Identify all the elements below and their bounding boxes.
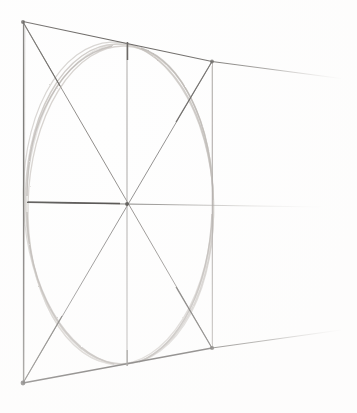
diagonal-accent-tl [23, 22, 60, 86]
center-point [125, 202, 129, 206]
drawing-canvas [0, 0, 357, 413]
corner-mark-top-right [210, 60, 214, 64]
square-edge-left-ghost [24, 26, 25, 379]
ellipse-accent-upper-left [27, 46, 112, 196]
perspective-circle-sketch [0, 0, 357, 413]
corner-mark-bottom-right [210, 346, 214, 350]
corner-mark-top-left [21, 20, 25, 24]
square-edge-top [23, 22, 212, 62]
diagonal-accent-bl [23, 316, 62, 383]
vanishing-line-top [212, 62, 341, 79]
vanishing-line-bottom [212, 330, 341, 348]
corner-mark-bottom-left [21, 381, 26, 386]
square-edge-bottom [23, 348, 212, 383]
